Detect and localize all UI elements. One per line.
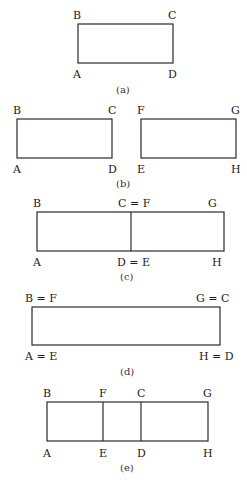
caption-c: (c) xyxy=(120,271,134,282)
rectangle-overlap-diagram: B C A D (a) B C A D F G E H (b) B C = F … xyxy=(0,0,247,486)
vertex-label-a-equals-e: A = E xyxy=(24,350,57,363)
coincident-rectangle xyxy=(32,307,220,345)
vertex-label-e: E xyxy=(99,447,107,460)
panel-d: B = F G = C A = E H = D (d) xyxy=(24,292,234,377)
vertex-label-h-equals-d: H = D xyxy=(199,350,234,363)
vertex-label-b-equals-f: B = F xyxy=(25,292,57,305)
vertex-label-h: H xyxy=(203,447,213,460)
caption-d: (d) xyxy=(120,366,134,377)
vertex-label-a: A xyxy=(42,447,52,460)
vertex-label-f: F xyxy=(137,104,145,117)
vertex-label-d-equals-e: D = E xyxy=(117,256,150,269)
vertex-label-b: B xyxy=(43,387,51,400)
panel-b: B C A D F G E H (b) xyxy=(12,104,241,189)
vertex-label-a: A xyxy=(32,256,42,269)
vertex-label-h: H xyxy=(212,256,222,269)
vertex-label-g-equals-c: G = C xyxy=(196,292,229,305)
caption-e: (e) xyxy=(120,462,134,473)
vertex-label-a: A xyxy=(72,68,82,81)
vertex-label-b: B xyxy=(13,104,21,117)
panel-a: B C A D (a) xyxy=(72,9,177,95)
vertex-label-e: E xyxy=(137,163,145,176)
rectangle-efgh xyxy=(141,119,236,158)
vertex-label-d: D xyxy=(108,163,117,176)
vertex-label-d: D xyxy=(137,447,146,460)
vertex-label-c: C xyxy=(108,104,116,117)
vertex-label-f: F xyxy=(99,387,107,400)
vertex-label-c-equals-f: C = F xyxy=(118,197,151,210)
vertex-label-a: A xyxy=(12,163,22,176)
overlapping-rectangles xyxy=(47,402,208,441)
rectangle-abcd xyxy=(78,24,173,63)
vertex-label-c: C xyxy=(168,9,176,22)
vertex-label-g: G xyxy=(203,387,212,400)
panel-e: B F C G A E D H (e) xyxy=(42,387,213,473)
vertex-label-c: C xyxy=(137,387,145,400)
caption-b: (b) xyxy=(116,178,130,189)
vertex-label-d: D xyxy=(168,68,177,81)
caption-a: (a) xyxy=(116,84,130,95)
rectangle-abcd xyxy=(17,119,112,158)
vertex-label-b: B xyxy=(33,197,41,210)
vertex-label-b: B xyxy=(73,9,81,22)
vertex-label-g: G xyxy=(208,197,217,210)
vertex-label-g: G xyxy=(231,104,240,117)
panel-c: B C = F G A D = E H (c) xyxy=(32,197,224,282)
vertex-label-h: H xyxy=(231,163,241,176)
